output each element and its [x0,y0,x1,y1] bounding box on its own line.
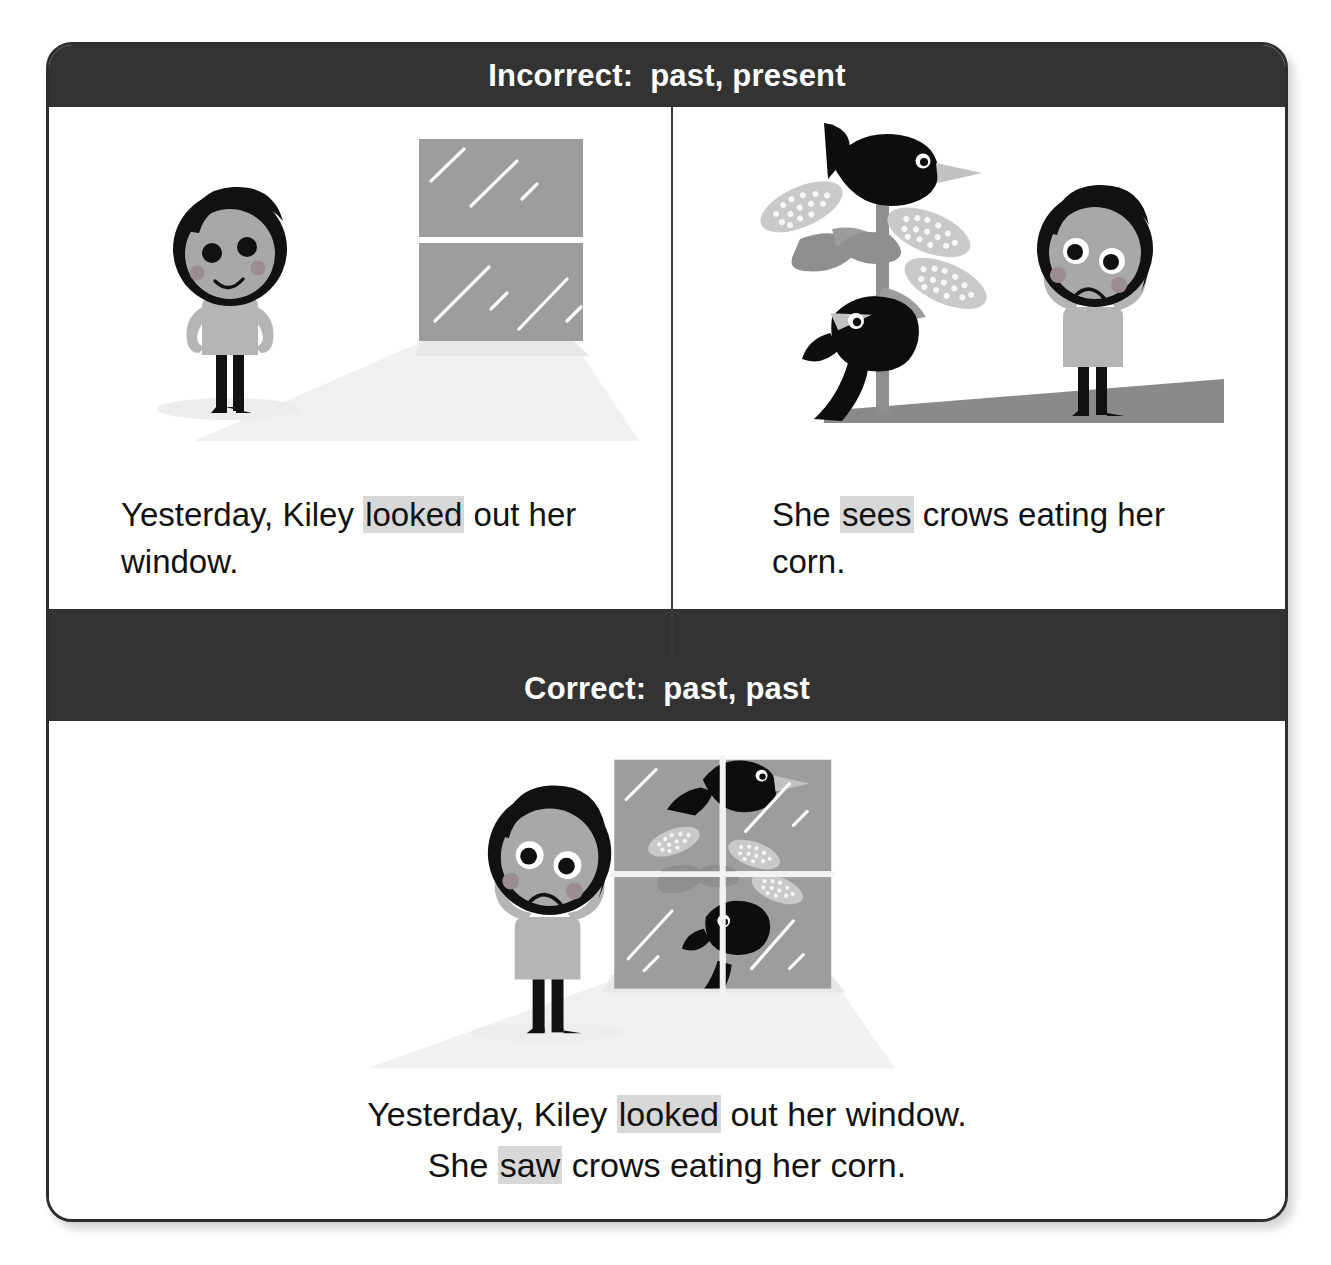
caption-right-prefix: She [772,496,840,533]
caption-bottom-line2-highlight: saw [498,1146,562,1184]
caption-bottom-line2-suffix: crows eating her corn. [562,1146,906,1184]
caption-left-prefix: Yesterday, Kiley [121,496,363,533]
caption-bottom-line1-highlight: looked [617,1095,721,1133]
crow-top [824,123,982,206]
top-panel-row: Yesterday, Kiley looked out her window. [49,107,1285,667]
header-incorrect-tenses: past, present [650,58,846,94]
panel-divider [671,107,673,660]
panel-incorrect-right: She sees crows eating her corn. [674,107,1288,667]
lesson-card: Incorrect: past, present [46,42,1288,1222]
caption-bottom-line2-prefix: She [428,1146,498,1184]
crow-lower [802,296,919,421]
panel-correct: Yesterday, Kiley looked out her window. … [49,721,1285,1219]
header-correct-label: Correct: [524,671,646,707]
caption-left-highlight: looked [363,496,464,533]
caption-bottom: Yesterday, Kiley looked out her window. … [49,1089,1285,1191]
girl-worried [1037,185,1153,416]
caption-bottom-line1: Yesterday, Kiley looked out her window. [49,1089,1285,1140]
scene-crows-eating-corn [704,111,1264,461]
caption-top-right: She sees crows eating her corn. [772,492,1242,586]
scene-girl-sees-crows-through-window [49,721,1285,1081]
header-correct-tenses: past, past [663,671,810,707]
scene-girl-smiling-at-window [119,121,639,451]
header-incorrect-label: Incorrect: [488,58,633,94]
caption-right-highlight: sees [840,496,914,533]
caption-bottom-line1-suffix: out her window. [721,1095,967,1133]
caption-bottom-line2: She saw crows eating her corn. [49,1140,1285,1191]
caption-bottom-line1-prefix: Yesterday, Kiley [367,1095,616,1133]
panel-incorrect-left: Yesterday, Kiley looked out her window. [49,107,671,667]
caption-top-left: Yesterday, Kiley looked out her window. [121,492,641,586]
header-incorrect: Incorrect: past, present [49,45,1285,107]
header-correct: Correct: past, past [49,609,1285,721]
